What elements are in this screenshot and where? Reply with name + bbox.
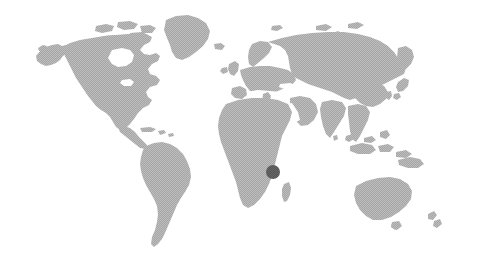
- location-marker-tanzania[interactable]: [266, 165, 280, 179]
- world-map-svg: [0, 0, 485, 266]
- world-map-figure: [0, 0, 485, 266]
